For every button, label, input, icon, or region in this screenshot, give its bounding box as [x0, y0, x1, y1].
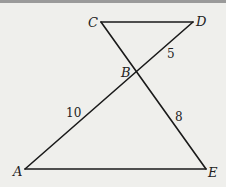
length-label-ab: 10	[66, 106, 81, 120]
geometry-figure: C D B A E 5 10 8	[0, 0, 226, 187]
point-label-a: A	[12, 164, 22, 179]
diagram-canvas: C D B A E 5 10 8	[0, 0, 226, 187]
point-label-b: B	[120, 65, 131, 80]
point-label-c: C	[88, 15, 98, 30]
point-label-d: D	[195, 14, 207, 29]
length-label-be: 8	[175, 110, 183, 124]
point-label-e: E	[207, 165, 218, 180]
segment-ce	[101, 22, 206, 169]
length-label-bd: 5	[167, 47, 175, 61]
segment-ad	[25, 22, 193, 169]
